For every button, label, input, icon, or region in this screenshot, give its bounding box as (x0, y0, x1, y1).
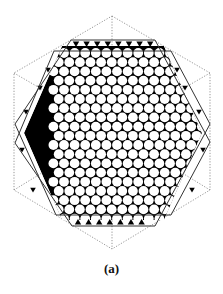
tiling-cell (133, 67, 143, 77)
tiling-cell (107, 76, 117, 86)
tiling-cell (208, 214, 218, 224)
tiling-cell (181, 57, 191, 67)
tiling-cell (102, 67, 112, 77)
tiling-cell (86, 186, 96, 196)
tiling-cell (128, 113, 138, 123)
tiling-cell (133, 85, 143, 95)
tiling-cell (96, 113, 106, 123)
tiling-cell (49, 140, 59, 150)
tiling-cell (86, 205, 96, 215)
tiling-cell (112, 140, 122, 150)
tiling-cell (117, 94, 127, 104)
tiling-cell (91, 140, 101, 150)
tiling-cell (202, 94, 212, 104)
tiling-cell (107, 94, 117, 104)
tiling-cell (91, 103, 101, 113)
tiling-cell (192, 168, 202, 178)
tiling-cell (86, 131, 96, 141)
tiling-cell (160, 186, 170, 196)
tiling-cell (170, 149, 180, 159)
tiling-cell (186, 103, 196, 113)
tiling-cell (102, 177, 112, 187)
tiling-cell (208, 140, 218, 150)
tiling-cell (117, 168, 127, 178)
tiling-cell (123, 122, 133, 132)
tiling-cell (102, 85, 112, 95)
tiling-cell (112, 67, 122, 77)
tiling-cell (70, 85, 80, 95)
tiling-cell (149, 149, 159, 159)
tiling-cell (107, 57, 117, 67)
tiling-cell (160, 131, 170, 141)
tiling-cell (213, 76, 223, 86)
tiling-cell (160, 76, 170, 86)
tiling-cell (123, 67, 133, 77)
tiling-cell (123, 103, 133, 113)
tiling-cell (59, 85, 69, 95)
tiling-cell (155, 48, 165, 58)
tiling-cell (102, 103, 112, 113)
tiling-cell (133, 48, 143, 58)
tiling-cell (213, 57, 223, 67)
tiling-cell (186, 122, 196, 132)
tiling-cell (75, 94, 85, 104)
tiling-cell (75, 76, 85, 86)
tiling-cell (123, 140, 133, 150)
tiling-cell (149, 131, 159, 141)
tiling-cell (208, 67, 218, 77)
tiling-cell (123, 85, 133, 95)
tiling-cell (112, 159, 122, 169)
tiling-cell (107, 186, 117, 196)
tiling-cell (186, 195, 196, 205)
tiling-cell (170, 168, 180, 178)
tiling-cell (128, 149, 138, 159)
tiling-cell (102, 159, 112, 169)
tiling-cell (197, 85, 207, 95)
tiling-cell (139, 205, 149, 215)
tiling-cell (155, 103, 165, 113)
tiling-cell (70, 177, 80, 187)
tiling-cell (133, 159, 143, 169)
tiling-cell (186, 159, 196, 169)
tiling-cell (80, 177, 90, 187)
tiling-cell (192, 57, 202, 67)
tiling-cell (133, 122, 143, 132)
tiling-cell (123, 195, 133, 205)
tiling-cell (213, 168, 223, 178)
tiling-cell (107, 149, 117, 159)
tiling-cell (80, 195, 90, 205)
tiling-cell (91, 122, 101, 132)
tiling-cell (155, 67, 165, 77)
tiling-cell (86, 168, 96, 178)
tiling-cell (144, 67, 154, 77)
tiling-cell (149, 205, 159, 215)
tiling-cell (54, 94, 64, 104)
tiling-cell (133, 103, 143, 113)
tiling-cell (112, 48, 122, 58)
tiling-cell (64, 149, 74, 159)
tiling-cell (155, 195, 165, 205)
tiling-cell (75, 131, 85, 141)
tiling-cell (176, 159, 186, 169)
tiling-cell (192, 149, 202, 159)
tiling-cell (139, 113, 149, 123)
tiling-cell (144, 122, 154, 132)
tiling-cell (213, 205, 223, 215)
tiling-cell (96, 57, 106, 67)
triangle-marker-icon (189, 188, 195, 193)
tiling-cell (208, 195, 218, 205)
tiling-cell (144, 140, 154, 150)
tiling-cell (91, 159, 101, 169)
tiling-cell (133, 195, 143, 205)
tiling-cell (59, 177, 69, 187)
tiling-cell (192, 131, 202, 141)
tiling-cell (149, 57, 159, 67)
tiling-cell (91, 85, 101, 95)
tiling-cell (102, 140, 112, 150)
tiling-cell (181, 113, 191, 123)
tiling-cell (213, 113, 223, 123)
tiling-cell (176, 48, 186, 58)
hexagonal-tiling-diagram (0, 0, 223, 294)
tiling-cell (70, 140, 80, 150)
tiling-cell (112, 195, 122, 205)
